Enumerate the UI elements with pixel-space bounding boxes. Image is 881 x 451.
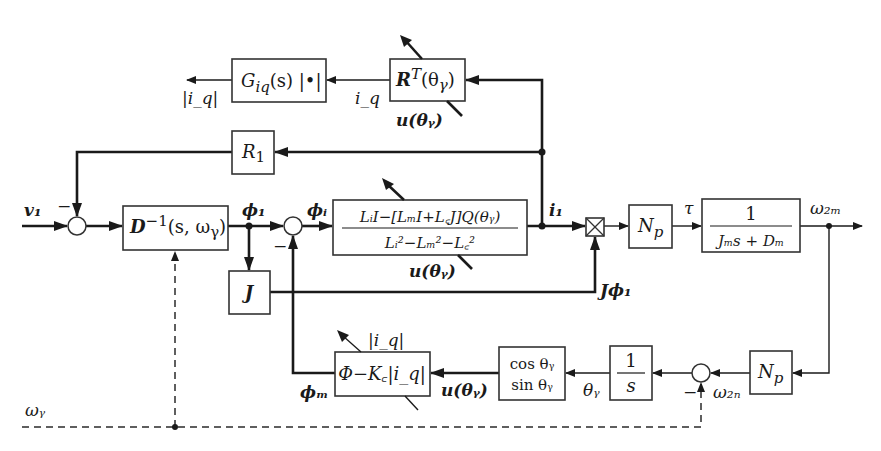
u-theta-top-label: u(θᵧ) <box>396 110 443 130</box>
u-theta-bottom-label: u(θᵧ) <box>441 380 488 400</box>
integrator-numerator: 1 <box>625 350 636 371</box>
plant-numerator: LᵢI−[LₘI+L꜀J]Q(θᵧ) <box>359 208 501 226</box>
sum-junction-3 <box>692 364 710 382</box>
omega2m-junction <box>826 223 832 229</box>
phim-to-sum2-wire <box>293 236 335 373</box>
phim-label: ϕₘ <box>300 382 328 402</box>
rt-param-line-bottom <box>447 101 462 116</box>
omega-gamma-arrowhead <box>697 382 705 392</box>
omega2m-label: ω₂ₘ <box>810 198 841 218</box>
i1-junction <box>539 223 546 230</box>
sum2-minus-sign: − <box>273 236 287 256</box>
abs-iq-param-label: |i_q| <box>368 330 404 350</box>
plant-denominator: Lᵢ²−Lₘ²−L꜀² <box>384 234 475 252</box>
omega-gamma-label: ωᵧ <box>25 400 46 420</box>
phi1-junction <box>246 223 253 230</box>
j-phi1-label: Jϕ₁ <box>597 280 632 300</box>
phi-kc-label: Φ−K꜀|i_q| <box>338 363 426 385</box>
mech-numerator: 1 <box>745 203 756 224</box>
block-diagram: Giq(s) |•| RT(θγ) R1 D−1(s, ωγ) LᵢI−[LₘI… <box>0 0 881 451</box>
sum-junction-1 <box>68 217 86 235</box>
theta-gamma-label: θᵧ <box>583 380 600 400</box>
iq-label: i_q <box>355 88 380 108</box>
tau-label: τ <box>684 198 694 218</box>
phikc-param-line-bottom <box>405 396 418 410</box>
phi1-label: ϕ₁ <box>242 200 265 220</box>
r1-branch-junction <box>539 149 546 156</box>
sum1-minus-sign: − <box>57 196 71 216</box>
mech-denominator: Jₘs + Dₘ <box>715 232 784 250</box>
dinv-param-arrowhead <box>171 251 179 261</box>
i1-label: i₁ <box>549 200 563 220</box>
v1-label: v₁ <box>24 200 41 220</box>
omega-gamma-junction <box>172 424 178 430</box>
multiplier-block <box>586 218 604 236</box>
sum-junction-2 <box>284 217 302 235</box>
phikc-param-line-top <box>343 336 361 352</box>
trig-line2: sin θᵧ <box>511 376 553 394</box>
u-theta-mid-label: u(θᵧ) <box>409 261 456 281</box>
phii-label: ϕᵢ <box>307 200 327 220</box>
plant-param-line-bottom <box>458 255 472 269</box>
trig-line1: cos θᵧ <box>510 355 555 373</box>
sum3-minus-sign: − <box>683 382 697 402</box>
abs-iq-output-label: |i_q| <box>182 88 218 108</box>
omega2n-label: ω₂ₙ <box>713 382 741 402</box>
integrator-denominator: s <box>626 375 635 396</box>
